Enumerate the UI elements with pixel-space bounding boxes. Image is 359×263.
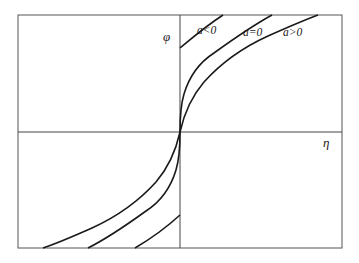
diagram-figure: φ η a<0 a=0 a>0 — [0, 0, 359, 263]
phi-axis-label: φ — [163, 29, 170, 44]
label-a-negative: a<0 — [197, 24, 217, 36]
label-a-zero: a=0 — [243, 26, 263, 38]
label-a-positive: a>0 — [283, 26, 303, 38]
eta-axis-label: η — [323, 135, 329, 150]
